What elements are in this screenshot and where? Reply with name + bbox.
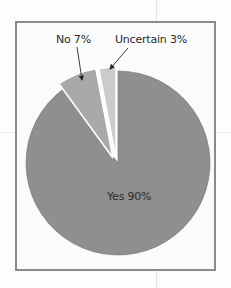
label-uncertain: Uncertain 3% — [115, 33, 187, 46]
arrow-uncertain — [110, 48, 128, 69]
label-yes: Yes 90% — [107, 190, 151, 203]
pie-slice-yes — [26, 71, 210, 255]
label-no: No 7% — [56, 33, 91, 46]
